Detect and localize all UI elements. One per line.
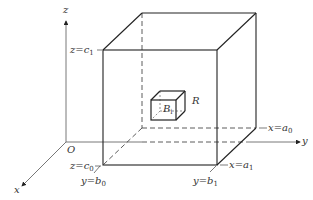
label-y-b0: y=b0 [81,176,106,189]
label-y-b1: y=b1 [193,176,218,189]
x-axis-label: x [14,185,20,195]
label-z-c0: z=c0 [70,161,94,174]
coordinate-axes [22,21,300,186]
diagram-canvas [0,0,313,200]
rectangular-box-diagram: z y x O z=c1 z=c0 y=b0 y=b1 x=a1 x=a0 Bi… [0,0,313,200]
label-x-a0: x=a0 [268,123,292,136]
region-label: R [192,96,200,106]
origin-label: O [67,145,75,155]
x-axis [22,142,66,186]
y-axis-label: y [302,136,308,146]
z-axis-label: z [63,5,68,15]
label-z-c1: z=c1 [70,45,94,58]
label-x-a1: x=a1 [229,160,253,173]
subbox-label: Bi [163,104,173,117]
bound-leader-lines [94,50,267,173]
